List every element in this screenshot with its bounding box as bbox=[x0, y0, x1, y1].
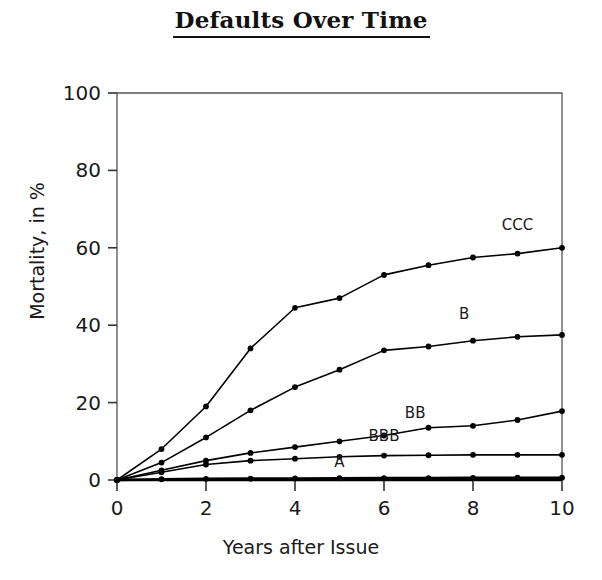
data-point bbox=[559, 408, 565, 414]
data-point bbox=[337, 367, 343, 373]
data-point bbox=[559, 245, 565, 251]
data-point bbox=[159, 446, 165, 452]
y-tick-label: 40 bbox=[76, 313, 101, 337]
data-point bbox=[337, 295, 343, 301]
data-point bbox=[470, 475, 476, 481]
x-tick-label: 8 bbox=[467, 496, 480, 520]
data-point bbox=[470, 452, 476, 458]
series-label-b: B bbox=[459, 305, 469, 323]
data-point bbox=[559, 452, 565, 458]
data-point bbox=[470, 423, 476, 429]
x-tick-label: 6 bbox=[378, 496, 391, 520]
data-point bbox=[203, 476, 209, 482]
data-point bbox=[426, 425, 432, 431]
series-label-ccc: CCC bbox=[502, 216, 533, 234]
series-label-bbb: BBB bbox=[369, 427, 400, 445]
data-point bbox=[470, 338, 476, 344]
x-axis-label: Years after Issue bbox=[0, 536, 602, 558]
data-point bbox=[470, 255, 476, 261]
plot-area: 0204060801000246810 CCCBBBBBBA bbox=[0, 0, 602, 580]
data-point bbox=[426, 452, 432, 458]
data-point bbox=[248, 407, 254, 413]
data-point bbox=[292, 305, 298, 311]
data-point bbox=[292, 476, 298, 482]
data-point bbox=[248, 476, 254, 482]
data-point bbox=[292, 444, 298, 450]
data-point bbox=[248, 346, 254, 352]
data-point bbox=[426, 344, 432, 350]
data-point bbox=[381, 272, 387, 278]
data-point bbox=[515, 417, 521, 423]
data-point bbox=[559, 332, 565, 338]
data-point bbox=[515, 475, 521, 481]
data-point bbox=[248, 458, 254, 464]
series-a: A bbox=[114, 453, 565, 483]
series-label-a: A bbox=[334, 453, 345, 471]
data-point bbox=[381, 475, 387, 481]
chart-figure: Defaults Over Time 0204060801000246810 C… bbox=[0, 0, 602, 580]
data-point bbox=[381, 347, 387, 353]
data-point bbox=[114, 477, 120, 483]
data-point bbox=[515, 452, 521, 458]
data-point bbox=[515, 251, 521, 257]
y-tick-label: 0 bbox=[88, 468, 101, 492]
series-line bbox=[117, 248, 562, 480]
data-point bbox=[337, 475, 343, 481]
data-series-group: CCCBBBBBBA bbox=[114, 216, 565, 483]
data-point bbox=[426, 262, 432, 268]
y-tick-label: 80 bbox=[76, 158, 101, 182]
y-tick-label: 20 bbox=[76, 391, 101, 415]
data-point bbox=[203, 462, 209, 468]
x-tick-label: 4 bbox=[289, 496, 302, 520]
y-axis-label: Mortality, in % bbox=[26, 151, 48, 351]
plot-frame bbox=[117, 93, 562, 480]
y-tick-label: 60 bbox=[76, 236, 101, 260]
data-point bbox=[159, 476, 165, 482]
data-point bbox=[203, 435, 209, 441]
data-point bbox=[292, 384, 298, 390]
x-tick-label: 2 bbox=[200, 496, 213, 520]
data-point bbox=[159, 469, 165, 475]
series-label-bb: BB bbox=[405, 404, 426, 422]
data-point bbox=[159, 460, 165, 466]
data-point bbox=[248, 450, 254, 456]
data-point bbox=[515, 334, 521, 340]
data-point bbox=[381, 453, 387, 459]
data-point bbox=[337, 438, 343, 444]
y-tick-label: 100 bbox=[63, 81, 101, 105]
x-tick-label: 0 bbox=[111, 496, 124, 520]
data-point bbox=[203, 404, 209, 410]
data-point bbox=[559, 475, 565, 481]
data-point bbox=[426, 475, 432, 481]
series-bb: BB bbox=[114, 404, 565, 483]
x-tick-label: 10 bbox=[549, 496, 574, 520]
data-point bbox=[292, 456, 298, 462]
